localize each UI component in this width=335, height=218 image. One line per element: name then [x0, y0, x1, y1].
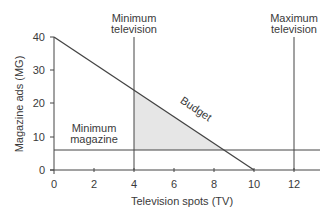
x-tick-label: 4 [131, 178, 137, 190]
x-tick-label: 12 [288, 178, 300, 190]
x-tick-label: 2 [91, 178, 97, 190]
x-tick-label: 8 [211, 178, 217, 190]
maximum-television-label: television [271, 23, 317, 35]
minimum-magazine-label: magazine [70, 133, 118, 145]
chart: 40 30 20 10 0 0 2 4 6 8 10 12 Minimum te… [0, 0, 335, 218]
x-ticks [54, 168, 294, 174]
budget-label: Budget [178, 94, 214, 123]
x-axis-title: Television spots (TV) [131, 195, 233, 207]
y-tick-label: 30 [33, 64, 45, 76]
y-tick-label: 10 [33, 131, 45, 143]
y-tick-label: 20 [33, 97, 45, 109]
minimum-television-label: television [111, 23, 157, 35]
y-axis-title: Magazine ads (MG) [13, 56, 25, 153]
x-tick-label: 0 [51, 178, 57, 190]
x-tick-label: 10 [248, 178, 260, 190]
y-tick-label: 0 [39, 164, 45, 176]
y-tick-label: 40 [33, 31, 45, 43]
y-ticks [50, 37, 54, 170]
x-tick-label: 6 [171, 178, 177, 190]
